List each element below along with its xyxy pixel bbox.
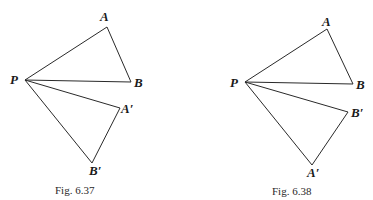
vertex-label-a-prime: A′ [306,165,320,180]
triangle-pa-prime-b-prime [25,80,120,163]
vertex-label-p: P [10,72,19,87]
figure-6-38: P A B B′ A′ Fig. 6.38 [230,14,365,197]
vertex-label-b: B [355,77,365,92]
vertex-label-b-prime: B′ [88,163,102,178]
triangle-pab [25,27,131,82]
vertex-label-a: A [99,9,109,24]
triangle-pa-prime-b-prime [245,82,348,165]
vertex-label-a: A [321,14,331,29]
vertex-label-a-prime: A′ [120,101,134,116]
figure-6-37: P A B A′ B′ Fig. 6.37 [10,9,143,196]
vertex-label-b: B [133,75,143,90]
vertex-label-p: P [230,75,239,90]
figure-caption: Fig. 6.37 [55,184,95,196]
triangle-pab [245,29,353,84]
figure-canvas: P A B A′ B′ Fig. 6.37 P A B B′ A′ Fig. 6… [0,0,373,200]
vertex-label-b-prime: B′ [350,105,364,120]
figure-caption: Fig. 6.38 [272,185,312,197]
